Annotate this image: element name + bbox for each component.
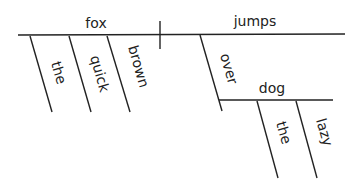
preposition-line	[200, 35, 222, 111]
preposition-word: over	[217, 51, 241, 86]
sentence-diagram: fox jumps the quick brown over dog the l…	[0, 0, 364, 188]
subject-word: fox	[85, 15, 106, 31]
object-modifier-line-lazy	[296, 101, 317, 178]
object-modifier-line-the	[257, 101, 278, 178]
main-baseline	[18, 34, 345, 35]
modifier-word-the: the	[48, 59, 70, 86]
prep-object-word: dog	[259, 80, 285, 96]
modifier-line-quick	[69, 36, 91, 112]
object-modifier-word-the: the	[273, 119, 295, 146]
modifier-word-quick: quick	[87, 53, 113, 94]
object-modifier-word-lazy: lazy	[313, 116, 336, 147]
modifier-line-the	[30, 36, 52, 112]
predicate-word: jumps	[233, 13, 277, 29]
modifier-word-brown: brown	[125, 43, 152, 89]
